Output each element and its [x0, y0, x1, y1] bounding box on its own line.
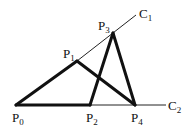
label-c2: C2 [168, 98, 181, 115]
label-c1: C1 [139, 6, 152, 23]
polygon-diagram: P0 P1 P2 P3 P4 C1 C2 [0, 0, 190, 126]
label-p0: P0 [12, 110, 24, 126]
edge-p1-p4 [77, 61, 135, 105]
label-p1: P1 [63, 46, 75, 63]
edge-p0-p1 [16, 61, 77, 105]
label-p2: P2 [86, 110, 98, 126]
edge-p3-p4 [113, 33, 135, 105]
label-p4: P4 [131, 110, 143, 126]
edge-p2-p3 [90, 33, 113, 105]
label-p3: P3 [98, 18, 110, 35]
